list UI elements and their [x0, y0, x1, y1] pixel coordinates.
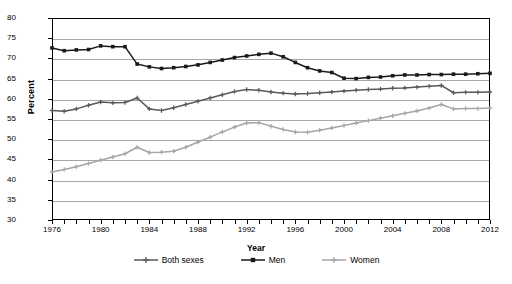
- y-axis-tick-label: 55: [0, 114, 16, 123]
- x-axis-tick-mark: [332, 220, 333, 224]
- x-axis-tick-mark: [125, 220, 126, 224]
- x-axis-tick-label: 2008: [421, 225, 461, 234]
- legend-label: Both sexes: [162, 256, 204, 265]
- x-axis-tick-mark: [64, 220, 65, 224]
- x-axis-tick-mark: [368, 220, 369, 224]
- gridline: [53, 140, 489, 141]
- y-axis-title: Percent: [26, 52, 36, 142]
- y-axis-tick-label: 40: [0, 175, 16, 184]
- gridline: [53, 160, 489, 161]
- gridline: [53, 39, 489, 40]
- legend-item-both-sexes[interactable]: Both sexes: [133, 255, 204, 265]
- x-axis-tick-mark: [405, 220, 406, 224]
- x-axis-tick-label: 1988: [178, 225, 218, 234]
- gridline: [53, 100, 489, 101]
- x-axis-tick-mark: [210, 220, 211, 224]
- x-axis-tick-mark: [320, 220, 321, 224]
- gridline: [53, 181, 489, 182]
- x-axis-tick-mark: [429, 220, 430, 224]
- y-axis-tick-label: 75: [0, 33, 16, 42]
- gridline: [53, 59, 489, 60]
- y-axis-tick-label: 30: [0, 215, 16, 224]
- x-axis-tick-mark: [393, 220, 394, 224]
- legend-swatch-plus-icon: [321, 255, 347, 265]
- x-axis-tick-mark: [137, 220, 138, 224]
- legend-item-men[interactable]: Men: [240, 255, 286, 265]
- y-axis-tick-label: 35: [0, 195, 16, 204]
- legend-item-women[interactable]: Women: [321, 255, 379, 265]
- legend-swatch-square-icon: [240, 255, 266, 265]
- x-axis-tick-label: 2000: [324, 225, 364, 234]
- x-axis-tick-label: 1980: [81, 225, 121, 234]
- x-axis-tick-mark: [356, 220, 357, 224]
- y-axis-tick-label: 45: [0, 154, 16, 163]
- legend-label: Women: [350, 256, 379, 265]
- x-axis-tick-mark: [186, 220, 187, 224]
- x-axis-tick-mark: [89, 220, 90, 224]
- x-axis-title: Year: [0, 243, 512, 253]
- x-axis-tick-mark: [417, 220, 418, 224]
- x-axis-tick-mark: [466, 220, 467, 224]
- x-axis-tick-label: 1984: [129, 225, 169, 234]
- x-axis-tick-label: 1976: [32, 225, 72, 234]
- y-axis-tick-label: 60: [0, 94, 16, 103]
- x-axis-tick-mark: [381, 220, 382, 224]
- x-axis-tick-mark: [162, 220, 163, 224]
- x-axis-tick-mark: [198, 220, 199, 224]
- y-axis-tick-label: 50: [0, 134, 16, 143]
- y-axis-tick-label: 80: [0, 13, 16, 22]
- x-axis-tick-mark: [52, 220, 53, 224]
- x-axis-tick-label: 2004: [373, 225, 413, 234]
- gridline: [53, 201, 489, 202]
- x-axis-tick-mark: [441, 220, 442, 224]
- gridline: [53, 80, 489, 81]
- x-axis-tick-mark: [222, 220, 223, 224]
- x-axis-tick-mark: [295, 220, 296, 224]
- x-axis-tick-mark: [149, 220, 150, 224]
- plot-area: [52, 18, 490, 220]
- x-axis-tick-mark: [308, 220, 309, 224]
- x-axis-tick-mark: [454, 220, 455, 224]
- legend-swatch-plus-icon: [133, 255, 159, 265]
- legend-label: Men: [269, 256, 286, 265]
- x-axis-tick-mark: [113, 220, 114, 224]
- x-axis-tick-mark: [174, 220, 175, 224]
- x-axis-tick-mark: [76, 220, 77, 224]
- x-axis-tick-mark: [271, 220, 272, 224]
- x-axis-tick-mark: [235, 220, 236, 224]
- x-axis-tick-mark: [490, 220, 491, 224]
- chart-legend: Both sexesMenWomen: [0, 255, 512, 265]
- x-axis-tick-mark: [259, 220, 260, 224]
- x-axis-tick-mark: [101, 220, 102, 224]
- x-axis-tick-label: 2012: [470, 225, 510, 234]
- x-axis-tick-label: 1992: [227, 225, 267, 234]
- line-chart: Percent 3035404550556065707580 197619801…: [0, 0, 512, 284]
- y-axis-tick-label: 70: [0, 53, 16, 62]
- x-axis-tick-label: 1996: [275, 225, 315, 234]
- x-axis-tick-mark: [283, 220, 284, 224]
- x-axis-tick-mark: [478, 220, 479, 224]
- x-axis-tick-mark: [247, 220, 248, 224]
- gridline: [53, 120, 489, 121]
- x-axis-tick-mark: [344, 220, 345, 224]
- y-axis-tick-label: 65: [0, 74, 16, 83]
